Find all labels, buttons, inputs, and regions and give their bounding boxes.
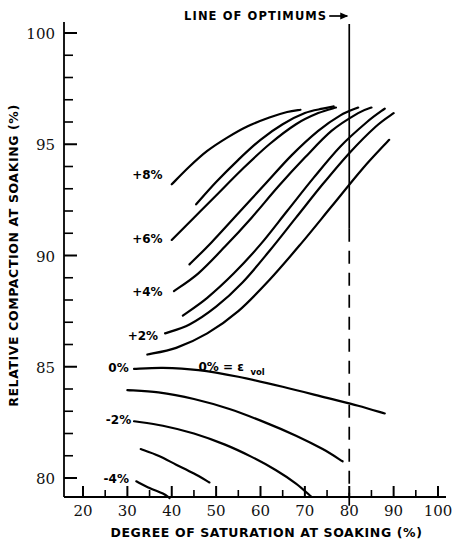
curve-label-4: +4% [132,285,162,299]
curve-label-8: +8% [132,168,162,182]
curve-label-neg2: -2% [106,413,131,427]
curve-label-2: +2% [128,329,158,343]
curve-label-6: +6% [132,232,162,246]
evol-definition-label: 0% = ε [198,360,243,374]
x-axis-tick-label: 20 [73,502,92,520]
chart-canvas: 808590951002030405060708090100 DEGREE OF… [0,0,460,548]
y-axis-title: RELATIVE COMPACTION AT SOAKING (%) [6,104,21,407]
x-axis-title: DEGREE OF SATURATION AT SOAKING (%) [111,525,423,540]
curve-label-0: 0% [108,361,128,375]
chart-background [0,0,460,548]
y-axis-tick-label: 100 [26,25,55,43]
x-axis-tick-label: 30 [118,502,137,520]
evol-subscript: vol [250,367,264,377]
line-of-optimums-label: LINE OF OPTIMUMS [184,9,327,23]
x-axis-tick-label: 70 [295,502,314,520]
x-axis-tick-label: 50 [207,502,226,520]
x-axis-tick-label: 40 [162,502,181,520]
x-axis-tick-label: 90 [384,502,403,520]
x-axis-tick-label: 100 [424,502,453,520]
y-axis-tick-label: 80 [36,470,55,488]
x-axis-tick-label: 60 [251,502,270,520]
chart-root: 808590951002030405060708090100 DEGREE OF… [0,0,460,548]
y-axis-tick-label: 95 [36,136,55,154]
y-axis-tick-label: 90 [36,248,55,266]
y-axis-tick-label: 85 [36,359,55,377]
curve-label-neg4: -4% [104,472,129,486]
